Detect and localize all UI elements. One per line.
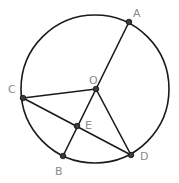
- point-O: [93, 86, 99, 92]
- label-E: E: [85, 119, 92, 132]
- point-D: [128, 152, 134, 158]
- point-A: [126, 19, 132, 25]
- label-D: D: [140, 150, 148, 163]
- point-C: [20, 95, 26, 101]
- label-C: C: [8, 83, 16, 96]
- label-A: A: [133, 7, 141, 20]
- label-O: O: [89, 74, 98, 87]
- geometry-diagram: A C O E B D: [0, 0, 179, 183]
- point-B: [60, 153, 66, 159]
- point-E: [74, 123, 80, 129]
- label-B: B: [55, 165, 63, 178]
- segment-OA: [96, 22, 129, 89]
- segment-CO: [23, 89, 96, 98]
